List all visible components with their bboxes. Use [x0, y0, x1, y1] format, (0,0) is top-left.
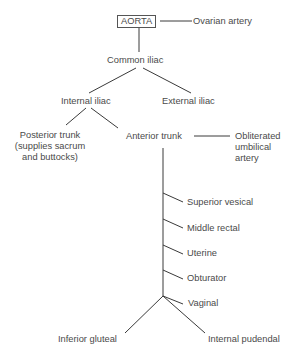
node-internal-iliac: Internal iliac	[61, 96, 111, 107]
node-middle-rectal: Middle rectal	[187, 223, 240, 234]
node-common-iliac: Common iliac	[107, 55, 163, 66]
arterial-tree-diagram: AORTA Ovarian artery Common iliac Intern…	[0, 0, 297, 354]
node-uterine: Uterine	[187, 248, 217, 259]
connector-lines	[0, 0, 297, 354]
node-inferior-gluteal: Inferior gluteal	[58, 334, 117, 345]
node-vaginal: Vaginal	[188, 298, 218, 309]
posterior-trunk-line2: (supplies sacrum	[14, 141, 86, 152]
node-posterior-trunk: Posterior trunk (supplies sacrum and but…	[14, 130, 86, 163]
obliterated-line3: artery	[235, 153, 280, 164]
node-obliterated-umbilical-artery: Obliterated umbilical artery	[235, 131, 280, 164]
obliterated-line1: Obliterated	[235, 131, 280, 142]
obliterated-line2: umbilical	[235, 142, 280, 153]
node-ovarian-artery: Ovarian artery	[193, 16, 252, 27]
posterior-trunk-line1: Posterior trunk	[14, 130, 86, 141]
node-internal-pudendal: Internal pudendal	[208, 334, 280, 345]
node-superior-vesical: Superior vesical	[187, 197, 253, 208]
node-aorta: AORTA	[117, 15, 156, 28]
node-anterior-trunk: Anterior trunk	[126, 131, 182, 142]
posterior-trunk-line3: and buttocks)	[14, 152, 86, 163]
node-external-iliac: External iliac	[162, 96, 215, 107]
node-obturator: Obturator	[187, 273, 226, 284]
